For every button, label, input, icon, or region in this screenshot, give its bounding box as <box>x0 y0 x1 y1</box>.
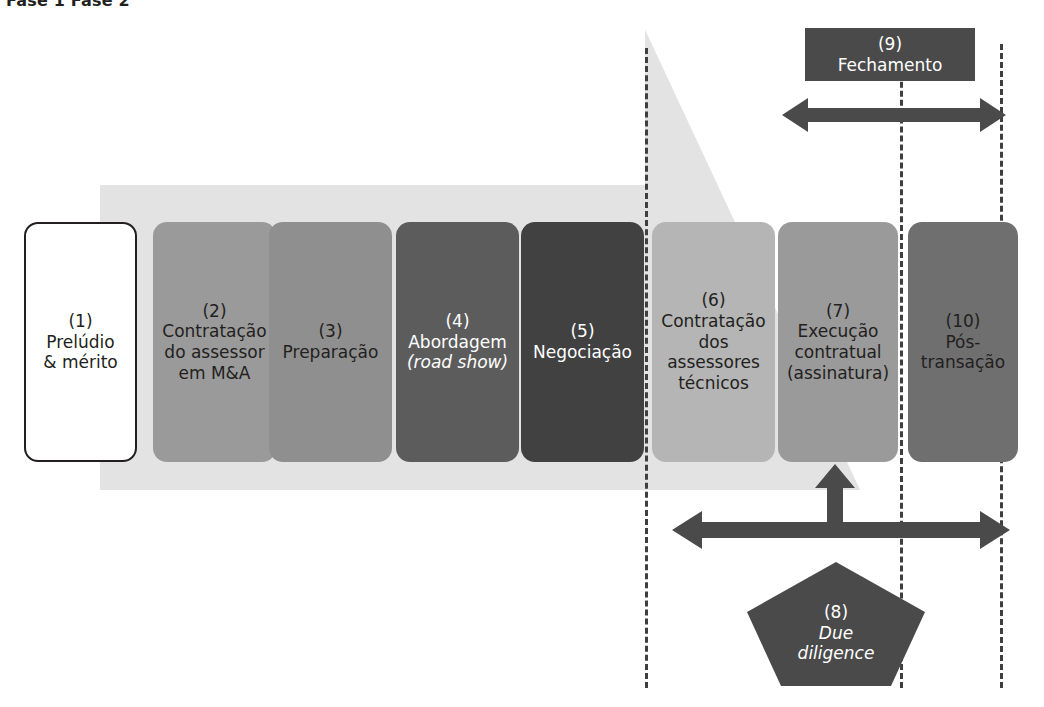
phase-box-7[interactable]: (7)Execução contratual (assinatura) <box>778 222 898 462</box>
phase-box-8[interactable]: (8) Due diligence <box>745 560 927 688</box>
phase-box-1-label: (1)Prelúdio & mérito <box>43 311 117 373</box>
phase-box-4-label: (4)Abordagem(road show) <box>407 311 508 373</box>
phase-box-2[interactable]: (2)Contratação do assessor em M&A <box>153 222 276 462</box>
phase-box-3[interactable]: (3)Preparação <box>269 222 392 462</box>
phase-box-7-label: (7)Execução contratual (assinatura) <box>787 301 889 384</box>
phase-box-9-label: (9)Fechamento <box>838 34 943 75</box>
separator-1 <box>645 48 648 688</box>
phase-box-5-label: (5)Negociação <box>533 321 632 362</box>
phase-box-4[interactable]: (4)Abordagem(road show) <box>396 222 519 462</box>
phase-box-1[interactable]: (1)Prelúdio & mérito <box>24 222 137 462</box>
phase-box-6[interactable]: (6)Contratação dos assessores técnicos <box>652 222 775 462</box>
pentagon-shape <box>745 560 927 688</box>
closing-span-arrow <box>780 95 1008 135</box>
phase-box-2-label: (2)Contratação do assessor em M&A <box>162 301 266 384</box>
phase-box-3-label: (3)Preparação <box>283 321 379 362</box>
phase-box-10-label: (10)Pós- transação <box>921 311 1005 373</box>
phase-box-5[interactable]: (5)Negociação <box>521 222 644 462</box>
phase-box-9[interactable]: (9)Fechamento <box>805 28 975 81</box>
phase-box-6-label: (6)Contratação dos assessores técnicos <box>661 290 765 394</box>
phase-box-10[interactable]: (10)Pós- transação <box>908 222 1018 462</box>
diagram-canvas: Fase 1 Fase 2 (9)Fechamento (1)Prelúdio … <box>0 0 1044 707</box>
diligence-span-arrow <box>670 508 1012 552</box>
